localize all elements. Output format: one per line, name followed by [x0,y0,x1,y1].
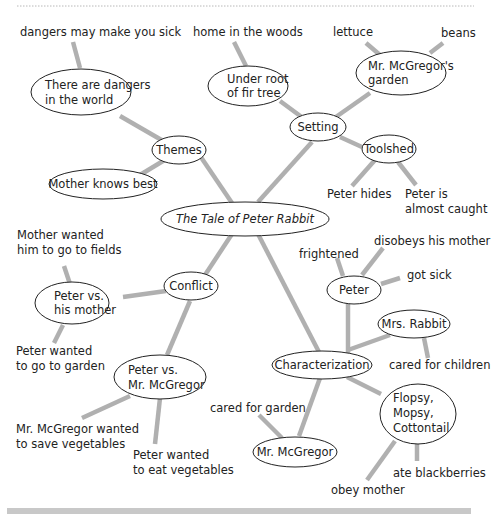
node-vs-mother[interactable]: Peter vs. his mother [35,282,116,324]
vs-mcgregor-detail-save-1: Mr. McGregor wanted [16,422,139,436]
node-themes[interactable]: Themes [152,136,206,164]
flopsy-line-3: Cottontail [393,421,449,435]
dangers-detail: dangers may make you sick [20,25,182,39]
edge-dangers-detail [73,42,80,68]
vs-mother-detail-fields-2: him to go to fields [17,243,122,257]
edge-flopsy-obey [367,441,395,480]
edge-vsmcgregor-save [82,396,130,418]
vs-mcgregor-detail-eat-2: to eat vegetables [133,463,234,477]
toolshed-detail-caught-2: almost caught [405,202,488,216]
setting-label: Setting [297,120,338,134]
concept-map: The Tale of Peter Rabbit Themes There ar… [0,0,491,514]
mr-mcgregor-detail-garden: cared for garden [210,401,306,415]
garden-line-2: garden [368,73,409,87]
edge-peter-disobeys [362,248,383,275]
vs-mcgregor-detail-eat-1: Peter wanted [133,448,209,462]
mrs-rabbit-label: Mrs. Rabbit [381,317,447,331]
flopsy-line-1: Flopsy, [393,391,434,405]
node-peter[interactable]: Peter [327,276,381,304]
edge-setting-toolshed [340,137,362,147]
node-fir-tree[interactable]: Under root of fir tree [208,66,289,106]
edge-themes-dangers [120,116,165,142]
edge-mcgregor-garden [259,415,282,438]
node-toolshed[interactable]: Toolshed [362,135,416,163]
edge-center-setting [258,142,312,202]
mr-mcgregor-label: Mr. McGregor [257,445,334,459]
node-dangers[interactable]: There are dangers in the world [31,69,151,115]
dangers-line-1: There are dangers [44,78,151,92]
flopsy-detail-blackberries: ate blackberries [393,466,486,480]
vs-mcgregor-ellipse [114,355,206,399]
vs-mother-detail-garden-2: to go to garden [16,359,105,373]
node-characterization[interactable]: Characterization [272,351,372,379]
dangers-ellipse [31,69,131,115]
fir-detail: home in the woods [193,25,303,39]
vs-mcgregor-line-1: Peter vs. [128,363,178,377]
edge-fir-detail [234,42,246,66]
edge-char-flopsy [347,377,381,394]
edge-char-mrsrabbit [348,335,390,350]
mrs-rabbit-detail-children: cared for children [389,358,490,372]
toolshed-label: Toolshed [363,142,414,156]
garden-detail-beans: beans [441,26,476,40]
fir-line-2: of fir tree [227,86,281,100]
edge-vsmother-fields [64,266,70,284]
edge-setting-fir [280,101,303,118]
edge-toolshed-caught [398,162,416,185]
edge-conflict-vsmother [123,291,166,297]
edge-mrsrabbit-children [424,338,428,358]
vs-mother-detail-garden-1: Peter wanted [16,344,92,358]
themes-label: Themes [155,143,202,157]
edge-peter-sick [381,278,400,284]
bottom-bar [7,508,471,514]
vs-mcgregor-line-2: Mr. McGregor [128,378,205,392]
node-conflict[interactable]: Conflict [164,272,218,300]
center-label: The Tale of Peter Rabbit [176,212,314,226]
peter-detail-sick: got sick [407,268,452,282]
node-mr-mcgregor[interactable]: Mr. McGregor [253,437,337,467]
edge-garden-beans [430,43,443,53]
vs-mcgregor-detail-save-2: to save vegetables [16,437,125,451]
vs-mother-detail-fields-1: Mother wanted [17,228,104,242]
vs-mother-line-2: his mother [54,303,116,317]
node-setting[interactable]: Setting [290,113,346,141]
fir-line-1: Under root [227,72,289,86]
characterization-label: Characterization [274,358,369,372]
edge-toolshed-hides [352,160,375,186]
node-mrs-rabbit[interactable]: Mrs. Rabbit [378,310,450,338]
conflict-label: Conflict [169,279,213,293]
edge-vsmcgregor-eat [155,398,160,444]
dangers-line-2: in the world [45,93,113,107]
garden-detail-lettuce: lettuce [333,25,373,39]
node-vs-mcgregor[interactable]: Peter vs. Mr. McGregor [114,355,206,399]
node-mcgregor-garden[interactable]: Mr. McGregor's garden [356,51,454,95]
node-mother-knows-best[interactable]: Mother knows best [48,169,158,199]
toolshed-detail-hides: Peter hides [327,187,391,201]
edge-setting-garden [333,93,370,119]
node-flopsy[interactable]: Flopsy, Mopsy, Cottontail [380,384,456,444]
mother-label: Mother knows best [48,177,158,191]
edge-center-conflict [205,234,232,275]
node-center[interactable]: The Tale of Peter Rabbit [161,202,329,236]
edge-vsmother-garden [54,325,63,343]
edge-garden-lettuce [366,43,380,55]
flopsy-line-2: Mopsy, [393,406,434,420]
peter-detail-disobeys: disobeys his mother [374,234,491,248]
flopsy-detail-obey: obey mother [331,483,405,497]
toolshed-detail-caught-1: Peter is [405,187,448,201]
peter-label: Peter [339,283,369,297]
edge-conflict-vsmcgregor [167,301,190,355]
garden-line-1: Mr. McGregor's [368,59,454,73]
peter-detail-frightened: frightened [299,247,359,261]
vs-mother-line-1: Peter vs. [54,289,104,303]
